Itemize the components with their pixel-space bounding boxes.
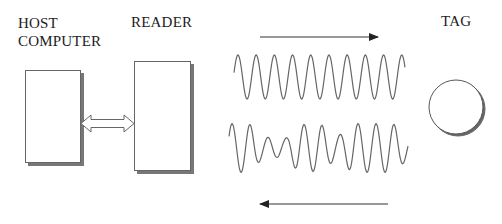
- diagram-graphics: [0, 0, 502, 224]
- modulated-wave: [229, 124, 408, 173]
- host-reader-double-arrow: [81, 115, 134, 132]
- carrier-wave: [234, 55, 405, 99]
- tag-circle: [429, 80, 483, 134]
